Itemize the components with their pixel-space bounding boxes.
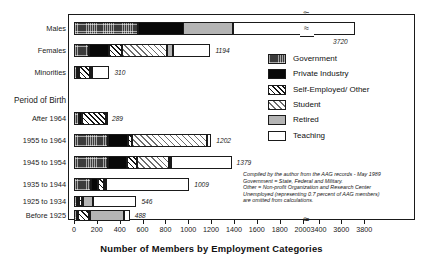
x-tick-label: 3400 — [311, 225, 327, 234]
bar-segment-self-employed-other — [82, 112, 106, 125]
x-tick — [341, 220, 342, 224]
bar-segment-teaching — [171, 156, 231, 169]
legend-label: Government — [293, 54, 337, 64]
chart-container: ≈ ≈ MalesFemalesMinoritiesAfter 19641955… — [0, 0, 423, 269]
x-tick-label: 3600 — [333, 225, 349, 234]
bar-segment-student — [106, 112, 108, 125]
bar-segment-government — [74, 44, 89, 57]
legend-label: Retired — [293, 115, 319, 125]
bar-segment-self-employed-other — [78, 210, 89, 221]
legend-item-student[interactable]: Student — [268, 98, 369, 112]
bar-segment-teaching — [124, 210, 129, 221]
axis-break-top-icon: ≈ — [303, 8, 309, 19]
x-tick-label: 800 — [159, 225, 171, 234]
bar-segment-student — [132, 134, 207, 147]
bar-segment-private-industry — [108, 156, 126, 169]
bar-segment-self-employed-other — [79, 66, 90, 79]
group-label-period-of-birth: Period of Birth — [0, 96, 66, 106]
legend-item-retired[interactable]: Retired — [268, 114, 369, 128]
bar-segment-student — [137, 156, 169, 169]
footnote-line: Other = Non-profit Organization and Rese… — [243, 184, 418, 191]
bar-segment-private-industry — [138, 22, 187, 35]
bar-segment-retired — [83, 196, 93, 207]
bar-axis-break-icon: ≈ — [300, 22, 314, 37]
x-tick-label: 1800 — [272, 225, 288, 234]
legend-label: Student — [293, 100, 321, 110]
x-tick — [74, 220, 75, 224]
bar-row: 3720 — [0, 22, 423, 35]
bar-row: 1379 — [0, 156, 423, 169]
legend-swatch-government — [268, 54, 286, 64]
x-tick-label: 3800 — [356, 225, 372, 234]
x-tick — [303, 220, 304, 224]
x-tick — [280, 220, 281, 224]
legend-item-teaching[interactable]: Teaching — [268, 129, 369, 143]
legend-swatch-private-industry — [268, 69, 286, 79]
x-tick — [120, 220, 121, 224]
x-tick-label: 1000 — [180, 225, 196, 234]
legend-item-government[interactable]: Government — [268, 52, 369, 66]
x-tick — [257, 220, 258, 224]
footnote-line: Unemployed (representing 0.7 percent of … — [243, 191, 418, 198]
bar-segment-government — [74, 134, 108, 147]
x-tick — [234, 220, 235, 224]
legend-swatch-student — [268, 100, 286, 110]
bar-segment-retired — [183, 22, 233, 35]
x-tick — [364, 220, 365, 224]
x-tick — [188, 220, 189, 224]
x-tick-label: 200 — [91, 225, 103, 234]
x-tick — [97, 220, 98, 224]
x-tick — [143, 220, 144, 224]
x-tick-label: 0 — [72, 225, 76, 234]
bar-total-label: 289 — [112, 112, 123, 125]
bar-total-label: 310 — [114, 66, 125, 79]
legend-label: Private Industry — [293, 69, 349, 79]
x-tick — [319, 220, 320, 224]
bar-segment-private-industry — [108, 134, 128, 147]
bar-total-label: 1202 — [216, 134, 231, 147]
bar-segment-teaching — [173, 44, 211, 57]
x-tick-label: 600 — [137, 225, 149, 234]
bar-segment-private-industry — [91, 178, 98, 191]
bar-segment-government — [74, 178, 91, 191]
legend-label: Teaching — [293, 131, 325, 141]
bar-segment-self-employed-other — [109, 44, 122, 57]
bar-segment-teaching — [233, 22, 355, 35]
bar-segment-teaching — [207, 134, 211, 147]
legend: GovernmentPrivate IndustrySelf-Employed/… — [268, 52, 369, 144]
bar-segment-student — [122, 44, 167, 57]
x-tick-label: 1200 — [203, 225, 219, 234]
bar-segment-teaching — [106, 178, 190, 191]
bar-segment-self-employed-other — [127, 156, 138, 169]
footnote-line: Compiled by the author from the AAG reco… — [243, 171, 418, 178]
x-tick-label: 2000 — [295, 225, 311, 234]
legend-swatch-teaching — [268, 131, 286, 141]
x-tick — [165, 220, 166, 224]
legend-swatch-retired — [268, 115, 286, 125]
footnote-line: are omitted from calculations. — [243, 197, 418, 204]
bar-segment-private-industry — [89, 44, 110, 57]
bar-segment-teaching — [92, 66, 109, 79]
bar-total-label: 488 — [135, 210, 146, 221]
legend-swatch-self-employed-other — [268, 85, 286, 95]
legend-label: Self-Employed/ Other — [293, 85, 369, 95]
x-axis-title: Number of Members by Employment Categori… — [0, 243, 423, 254]
legend-item-self-employed-other[interactable]: Self-Employed/ Other — [268, 83, 369, 97]
bar-segment-teaching — [93, 196, 136, 207]
bar-total-label: 1009 — [194, 178, 209, 191]
footnote-line: Government = State, Federal and Military… — [243, 178, 418, 185]
bar-segment-government — [74, 156, 108, 169]
bar-total-label: 1194 — [215, 44, 229, 57]
x-tick — [211, 220, 212, 224]
x-tick-label: 400 — [114, 225, 126, 234]
x-tick-label: 1400 — [226, 225, 242, 234]
bar-total-label: 1379 — [237, 156, 252, 169]
legend-item-private-industry[interactable]: Private Industry — [268, 67, 369, 81]
bar-total-label: 546 — [141, 196, 152, 207]
x-tick-label: 1600 — [249, 225, 265, 234]
footnote-block: Compiled by the author from the AAG reco… — [243, 171, 418, 204]
bar-segment-government — [74, 22, 138, 35]
